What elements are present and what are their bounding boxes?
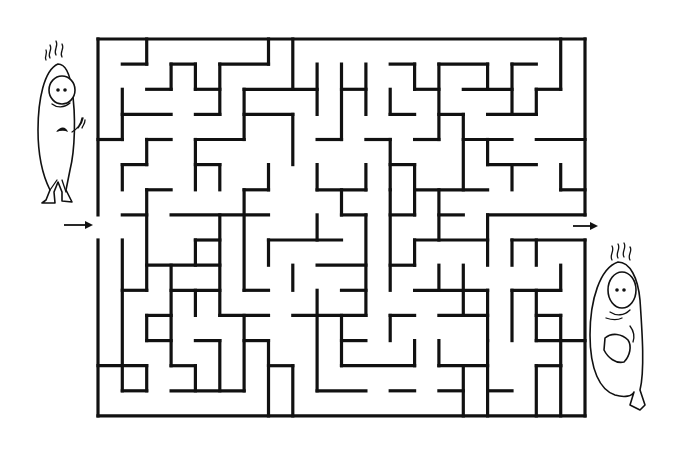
worried-character-icon <box>38 41 85 203</box>
maze-canvas[interactable] <box>0 0 682 451</box>
maze-walls <box>98 39 585 416</box>
cowering-character-icon <box>590 243 645 410</box>
start-arrow-icon <box>64 221 93 229</box>
end-arrow-icon <box>573 222 598 230</box>
